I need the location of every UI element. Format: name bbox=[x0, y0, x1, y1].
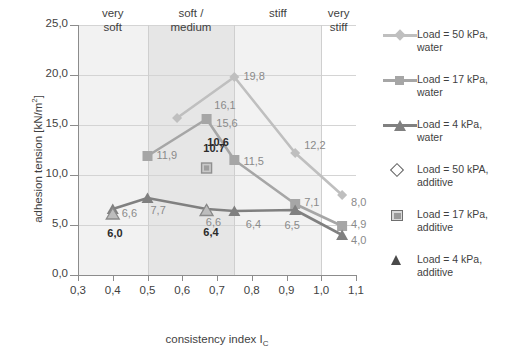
x-tick bbox=[78, 275, 79, 281]
value-label-6-6-a: 6,6 bbox=[122, 207, 137, 219]
x-tick bbox=[113, 275, 114, 281]
legend-label-line1: Load = 4 kPa, bbox=[417, 253, 509, 266]
x-tick bbox=[148, 275, 149, 281]
square-open-icon bbox=[391, 210, 403, 221]
x-tick bbox=[287, 275, 288, 281]
legend-item-5[interactable]: Load = 17 kPa,additive bbox=[383, 208, 509, 233]
additive-label-6-0: 6,0 bbox=[107, 227, 122, 239]
triangle-filled-icon bbox=[391, 255, 401, 265]
y-tick-label: 20,0 bbox=[0, 67, 68, 79]
zone-label-3: stiff bbox=[234, 7, 321, 21]
x-tick bbox=[217, 275, 218, 281]
legend-item-label: Load = 50 kPa,water bbox=[417, 28, 509, 53]
legend-label-line2: additive bbox=[417, 266, 509, 279]
square-marker-icon bbox=[395, 76, 404, 85]
series-2-marker bbox=[143, 151, 153, 161]
y-tick-label: 25,0 bbox=[0, 17, 68, 29]
series-2-marker bbox=[229, 155, 239, 165]
x-tick-label: 1,1 bbox=[336, 284, 376, 296]
series-3-marker bbox=[336, 230, 348, 241]
additive-label-10-7: 10.7 bbox=[203, 142, 224, 154]
legend-item-1[interactable]: Load = 50 kPa,water bbox=[383, 28, 509, 53]
value-label-19-8: 19,8 bbox=[243, 70, 264, 82]
zone-label-2: soft /medium bbox=[148, 7, 235, 34]
y-axis-title-text: adhesion tension [kN/m2] bbox=[32, 95, 44, 223]
callout-label-1: 16,1 bbox=[214, 99, 235, 111]
y-tick bbox=[70, 175, 78, 176]
legend-item-2[interactable]: Load = 17 kPa,water bbox=[383, 73, 509, 98]
value-label-6-5: 6,5 bbox=[285, 219, 300, 231]
value-label-6-4: 6,4 bbox=[246, 218, 261, 230]
plot-area: 19,812,28,011,915,611,57,14,96,67,76,66,… bbox=[78, 25, 356, 275]
value-label-15-6: 15,6 bbox=[216, 117, 237, 129]
legend-line-square-icon bbox=[383, 73, 417, 87]
x-axis-title-text: consistency index IC bbox=[166, 333, 269, 345]
value-label-4-0: 4,0 bbox=[351, 234, 366, 246]
y-axis-line bbox=[78, 25, 79, 276]
y-tick bbox=[70, 75, 78, 76]
legend-item-4[interactable]: Load = 50 kPA,additive bbox=[383, 163, 509, 188]
legend-line-diamond-icon bbox=[383, 28, 417, 42]
legend-item-label: Load = 17 kPa,water bbox=[417, 73, 509, 98]
legend-diamond-open-icon bbox=[383, 163, 417, 177]
value-label-4-9: 4,9 bbox=[351, 218, 366, 230]
legend-label-line1: Load = 50 kPA, bbox=[417, 163, 509, 176]
y-tick-label: 0,0 bbox=[0, 267, 68, 279]
legend-label-line2: water bbox=[417, 86, 509, 99]
legend-item-label: Load = 50 kPA,additive bbox=[417, 163, 509, 188]
legend-label-line2: additive bbox=[417, 221, 509, 234]
legend-item-3[interactable]: Load = 4 kPa,water bbox=[383, 118, 509, 143]
legend-item-label: Load = 4 kPa,water bbox=[417, 118, 509, 143]
legend-label-line1: Load = 17 kPa, bbox=[417, 208, 509, 221]
legend-item-6[interactable]: Load = 4 kPa,additive bbox=[383, 253, 509, 278]
triangle-marker-icon bbox=[394, 120, 406, 131]
zone-label-1: verysoft bbox=[78, 7, 148, 34]
y-tick-label: 15,0 bbox=[0, 117, 68, 129]
y-tick bbox=[70, 225, 78, 226]
legend-line-triangle-icon bbox=[383, 118, 417, 132]
legend-item-label: Load = 17 kPa,additive bbox=[417, 208, 509, 233]
x-axis-title: consistency index IC bbox=[78, 333, 356, 348]
x-tick bbox=[252, 275, 253, 281]
value-label-7-7: 7,7 bbox=[151, 204, 166, 216]
value-label-12-2: 12,2 bbox=[304, 139, 325, 151]
additive-label-6-4: 6,4 bbox=[203, 226, 218, 238]
legend-item-label: Load = 4 kPa,additive bbox=[417, 253, 509, 278]
y-tick-label: 5,0 bbox=[0, 217, 68, 229]
legend-label-line2: additive bbox=[417, 176, 509, 189]
x-tick bbox=[321, 275, 322, 281]
x-tick bbox=[356, 275, 357, 281]
y-tick bbox=[70, 125, 78, 126]
legend-label-line1: Load = 50 kPa, bbox=[417, 28, 509, 41]
y-tick bbox=[70, 25, 78, 26]
value-label-11-9: 11,9 bbox=[157, 149, 178, 161]
legend-triangle-filled-icon bbox=[383, 253, 417, 267]
value-label-7-1: 7,1 bbox=[304, 196, 319, 208]
legend-label-line1: Load = 17 kPa, bbox=[417, 73, 509, 86]
y-tick bbox=[70, 275, 78, 276]
value-label-11-5: 11,5 bbox=[243, 155, 264, 167]
x-tick bbox=[182, 275, 183, 281]
legend-label-line1: Load = 4 kPa, bbox=[417, 118, 509, 131]
series-2-marker bbox=[202, 114, 212, 124]
diamond-marker-icon bbox=[394, 29, 405, 40]
diamond-open-icon bbox=[390, 163, 404, 177]
additive-marker-square bbox=[202, 163, 212, 173]
zone-label-4: verystiff bbox=[321, 7, 356, 34]
legend-square-open-icon bbox=[383, 208, 417, 222]
value-label-8-0: 8,0 bbox=[351, 196, 366, 208]
legend-label-line2: water bbox=[417, 41, 509, 54]
chart-figure: adhesion tension [kN/m2] 0,05,010,015,02… bbox=[0, 0, 510, 360]
y-tick-label: 10,0 bbox=[0, 167, 68, 179]
legend-label-line2: water bbox=[417, 131, 509, 144]
